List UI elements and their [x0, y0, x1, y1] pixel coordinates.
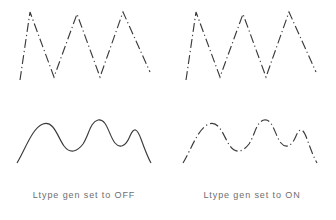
panel-ltype-gen-off: Ltype gen set to OFF — [0, 0, 168, 220]
spline-curve-on — [183, 120, 317, 163]
ltype-gen-figure: Ltype gen set to OFF Ltype gen set to ON — [0, 0, 336, 220]
caption-ltype-gen-off: Ltype gen set to OFF — [0, 189, 168, 201]
zigzag-polyline-off — [20, 12, 150, 80]
waveforms-right — [168, 0, 336, 186]
panel-ltype-gen-on: Ltype gen set to ON — [168, 0, 336, 220]
waveforms-left — [0, 0, 168, 186]
zigzag-polyline-on — [186, 12, 316, 80]
spline-curve-off — [17, 120, 151, 163]
caption-ltype-gen-on: Ltype gen set to ON — [168, 189, 336, 201]
